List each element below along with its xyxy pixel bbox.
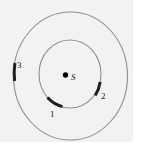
segment-3-arc <box>14 63 15 81</box>
center-label: S <box>71 73 76 82</box>
segment-1-arc <box>48 98 63 107</box>
orbital-diagram-figure: S 1 2 3 <box>0 0 141 150</box>
center-star-dot <box>63 72 68 77</box>
segment-3-label: 3 <box>17 61 22 70</box>
segment-1-label: 1 <box>50 110 55 119</box>
segment-2-arc <box>95 82 100 96</box>
segment-2-label: 2 <box>101 92 106 101</box>
